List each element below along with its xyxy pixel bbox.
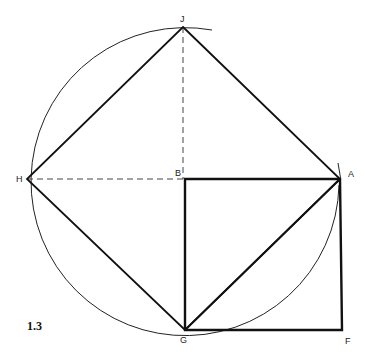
label-h: H xyxy=(16,174,23,184)
label-a: A xyxy=(348,169,354,179)
label-f: F xyxy=(345,336,351,346)
label-b: B xyxy=(175,168,181,178)
geometry-diagram: J H B A G F 1.3 xyxy=(0,0,365,352)
figure-number: 1.3 xyxy=(27,319,42,333)
label-g: G xyxy=(180,335,187,345)
label-j: J xyxy=(180,14,185,24)
diagonal-ga xyxy=(185,179,340,330)
